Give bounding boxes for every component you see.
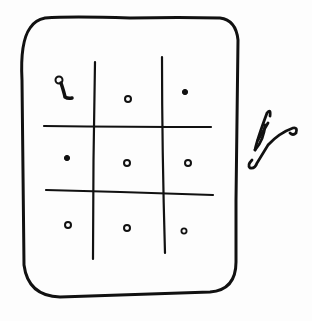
cell-mark-dot <box>124 225 130 231</box>
grid-line-vertical-1 <box>93 62 95 259</box>
cell-mark-dot <box>124 160 130 166</box>
cell-mark-dot <box>185 160 191 166</box>
grid-line-vertical-2 <box>162 57 165 253</box>
cell-mark-dot <box>65 222 71 228</box>
grid-line-horizontal-1 <box>44 126 211 127</box>
outer-frame <box>22 17 238 297</box>
cell-mark-dot <box>182 89 187 94</box>
sketch-canvas <box>0 0 312 321</box>
cell-mark-dot <box>125 96 131 102</box>
squiggle-mark <box>249 111 297 168</box>
cell-mark-glyph-1 <box>56 77 73 99</box>
cell-mark-dot <box>64 155 69 160</box>
grid-line-horizontal-2 <box>46 190 213 195</box>
cell-mark-dot <box>181 228 186 233</box>
